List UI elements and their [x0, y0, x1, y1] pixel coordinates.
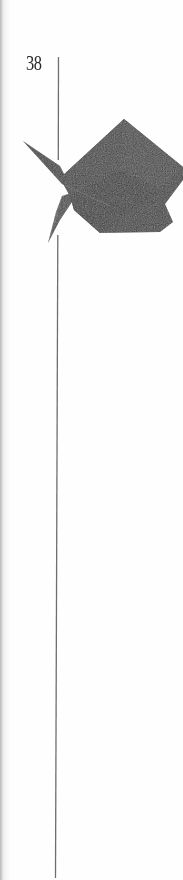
- origami-fish-icon: [0, 0, 183, 880]
- book-page: 38: [0, 0, 183, 880]
